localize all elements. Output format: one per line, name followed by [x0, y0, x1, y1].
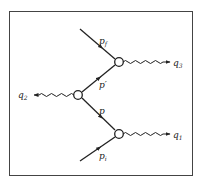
label-pprime: p′	[99, 80, 107, 90]
label-q1: q1	[173, 130, 183, 141]
photon-line-q2	[34, 94, 74, 97]
vertex-top	[115, 58, 124, 67]
vertex-bottom	[115, 130, 124, 139]
photon-line-q3	[123, 61, 170, 64]
feynman-diagram: pf p′ p pi q3 q1 q2	[0, 0, 201, 187]
photon-line-q1	[123, 133, 170, 136]
fermion-line-pi	[80, 137, 115, 161]
label-p: p	[99, 106, 105, 116]
label-pi: pi	[99, 151, 107, 162]
label-q3: q3	[173, 58, 183, 69]
fermion-line-pf	[80, 29, 115, 59]
label-q2: q2	[18, 90, 28, 101]
vertex-left	[74, 91, 83, 100]
